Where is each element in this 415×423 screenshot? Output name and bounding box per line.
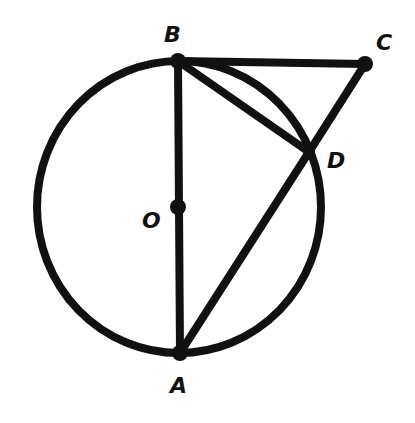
segment-cd (309, 64, 365, 152)
point-a (172, 345, 188, 361)
label-o: O (142, 208, 161, 233)
label-d: D (327, 148, 345, 173)
point-b (170, 53, 186, 69)
segment-da (180, 152, 309, 353)
point-d (303, 146, 315, 158)
point-o (170, 199, 186, 215)
segment-bc (178, 61, 365, 64)
label-b: B (164, 22, 181, 47)
label-a: A (168, 373, 187, 398)
label-c: C (376, 30, 392, 55)
point-c (357, 56, 373, 72)
geometry-diagram: B C D O A (0, 0, 415, 423)
